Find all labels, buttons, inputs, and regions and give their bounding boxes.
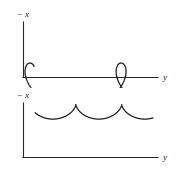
prolate-cycloid-plot: − x y — [0, 0, 178, 88]
panel-cycloid: − x y — [0, 89, 178, 177]
x-axis-label-bottom: y — [162, 152, 167, 162]
cycloid-curve — [35, 105, 153, 120]
y-axis-label-minus-bottom: − — [17, 90, 22, 100]
prolate-cycloid-curve — [25, 63, 178, 88]
y-axis-label-minus-top: − — [17, 9, 22, 19]
x-axis-label-top: y — [162, 72, 167, 82]
y-axis-label-bottom: x — [24, 90, 29, 100]
cycloid-plot: − x y — [0, 89, 178, 177]
figure-root: − x y − x y — [0, 0, 178, 177]
panel-prolate-cycloid: − x y — [0, 0, 178, 88]
y-axis-label-top: x — [24, 9, 29, 19]
